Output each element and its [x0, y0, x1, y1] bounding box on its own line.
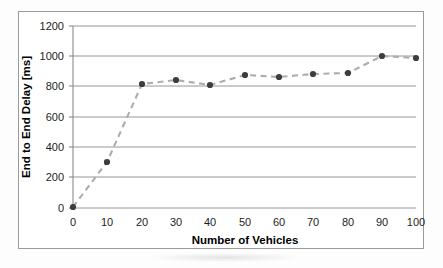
x-tick-label-30: 30: [170, 216, 182, 228]
data-point-100: [413, 55, 419, 61]
y-tick-label-1000: 1000: [40, 50, 64, 62]
y-tick-label-0: 0: [58, 202, 64, 214]
x-axis-title: Number of Vehicles: [192, 234, 299, 246]
y-tick-label-1200: 1200: [40, 20, 64, 32]
data-point-0: [70, 204, 76, 210]
x-tick-label-80: 80: [342, 216, 354, 228]
y-axis-ticks: [69, 26, 73, 208]
y-tick-label-200: 200: [46, 171, 64, 183]
data-point-70: [310, 71, 316, 77]
data-point-30: [173, 77, 179, 83]
x-tick-label-10: 10: [101, 216, 113, 228]
series-line-end-to-end-delay: [73, 56, 416, 207]
x-tick-label-100: 100: [407, 216, 425, 228]
x-tick-label-40: 40: [204, 216, 216, 228]
x-tick-label-90: 90: [376, 216, 388, 228]
data-point-40: [207, 82, 213, 88]
y-tick-label-600: 600: [46, 111, 64, 123]
x-axis-tick-labels: 0 10 20 30 40 50 60 70 80 90 100: [70, 216, 425, 228]
series-markers: [70, 53, 419, 210]
data-point-10: [104, 159, 110, 165]
chart-canvas: 1200 1000 800 600 400 200 0 0 10 20 30 4…: [0, 0, 443, 268]
y-tick-label-800: 800: [46, 80, 64, 92]
data-point-20: [139, 81, 145, 87]
x-tick-label-60: 60: [273, 216, 285, 228]
data-point-90: [379, 53, 385, 59]
line-chart: 1200 1000 800 600 400 200 0 0 10 20 30 4…: [0, 0, 443, 268]
x-tick-label-20: 20: [136, 216, 148, 228]
scan-artifact: [150, 253, 300, 262]
y-axis-tick-labels: 1200 1000 800 600 400 200 0: [40, 20, 64, 214]
y-axis-title: End to End Delay [ms]: [20, 56, 32, 178]
y-tick-label-400: 400: [46, 141, 64, 153]
data-point-50: [242, 72, 248, 78]
x-tick-label-50: 50: [239, 216, 251, 228]
x-tick-label-0: 0: [70, 216, 76, 228]
data-point-60: [276, 74, 282, 80]
gridlines: [73, 26, 416, 208]
x-tick-label-70: 70: [307, 216, 319, 228]
data-point-80: [345, 70, 351, 76]
